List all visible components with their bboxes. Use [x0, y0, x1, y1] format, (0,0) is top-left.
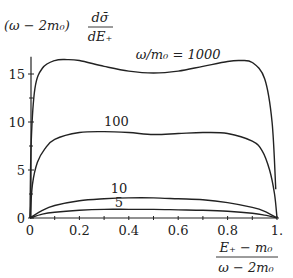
x-axis-label-den: ω − 2m₀ [218, 260, 274, 275]
x-tick-label: 0.8 [217, 223, 238, 238]
x-tick-label: 0.2 [69, 223, 90, 238]
x-axis-label-num: E₊ − m₀ [218, 240, 273, 255]
y-tick-label: 0 [17, 211, 25, 226]
curve-label: 100 [104, 114, 129, 129]
y-tick-label: 15 [8, 67, 25, 82]
y-tick-label: 5 [17, 163, 25, 178]
line-chart: 05101500.20.40.60.81. ω/m₀ = 1000100105(… [0, 0, 293, 278]
x-tick-label: 0.6 [168, 223, 189, 238]
y-axis-label-prefix: (ω − 2m₀) [4, 18, 70, 33]
y-axis-label-num: dσ̄ [91, 10, 109, 25]
curve-label: ω/m₀ = 1000 [136, 47, 221, 62]
axes: 05101500.20.40.60.81. [8, 57, 283, 238]
x-tick-label: 0.4 [118, 223, 139, 238]
curve-label: 5 [115, 195, 123, 210]
x-tick-label: 1. [271, 223, 283, 238]
series-line-0 [30, 60, 276, 218]
y-tick-label: 10 [8, 115, 25, 130]
x-tick-label: 0 [26, 223, 34, 238]
curve-label: 10 [111, 181, 128, 196]
y-axis-label-den: dE₊ [88, 29, 113, 44]
curves [30, 60, 277, 218]
series-line-2 [30, 198, 277, 218]
